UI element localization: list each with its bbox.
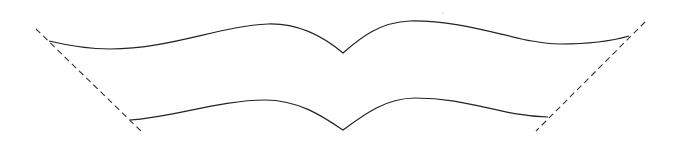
bottom-wavy-curve — [130, 98, 548, 130]
ribbon-diagram — [0, 0, 676, 142]
top-wavy-curve — [49, 21, 629, 53]
right-dashed-fold-line — [536, 22, 645, 131]
left-dashed-fold-line — [36, 29, 142, 132]
speck-mark — [442, 12, 444, 14]
